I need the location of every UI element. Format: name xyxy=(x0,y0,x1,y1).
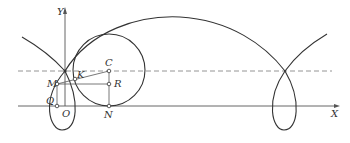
curve-right-branch xyxy=(285,34,327,71)
x-axis-label: X xyxy=(331,109,338,119)
diagram-canvas xyxy=(0,0,350,143)
point-C-marker xyxy=(107,69,111,73)
curve-main-arch xyxy=(65,17,285,71)
label-Q: Q xyxy=(46,96,54,106)
point-Q-marker xyxy=(55,104,59,108)
point-N-marker xyxy=(107,104,111,108)
diagram-figure: Y X C K M R Q O N xyxy=(0,0,350,143)
label-N: N xyxy=(104,110,113,120)
y-axis-label: Y xyxy=(57,7,64,17)
curve-right-loop xyxy=(272,71,296,130)
point-R-marker xyxy=(107,82,111,86)
label-R: R xyxy=(114,79,122,89)
crossing-point-marker xyxy=(63,69,66,72)
label-C: C xyxy=(105,58,113,68)
label-O: O xyxy=(62,109,70,119)
label-K: K xyxy=(77,70,84,80)
curve-left-branch xyxy=(22,37,65,71)
label-M: M xyxy=(47,79,57,89)
